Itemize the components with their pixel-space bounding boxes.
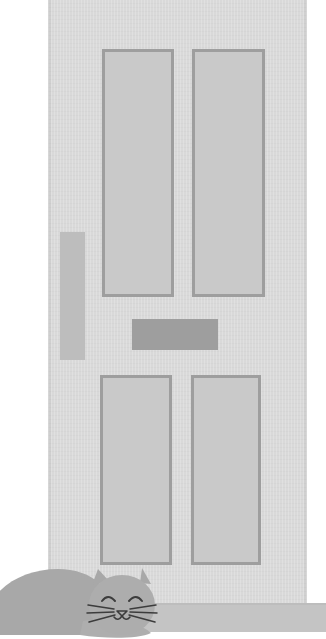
illustration-canvas: Grayscale flat illustration of a four-pa… — [0, 0, 326, 639]
panel-bottom-left — [100, 375, 172, 565]
handle-plate[interactable] — [60, 232, 85, 360]
mail-slot[interactable] — [132, 319, 218, 350]
sleeping-cat[interactable] — [0, 563, 178, 639]
door-edge-left-icon — [48, 0, 51, 612]
panel-bottom-right — [191, 375, 261, 565]
door-edge-right-icon — [304, 0, 307, 612]
panel-top-right — [192, 49, 265, 297]
cat-head-icon — [89, 575, 155, 635]
front-door[interactable] — [48, 0, 307, 612]
panel-top-left — [102, 49, 174, 297]
door-texture-overlay — [48, 0, 307, 612]
illustration-caption: Grayscale flat illustration of a four-pa… — [0, 16, 1, 17]
